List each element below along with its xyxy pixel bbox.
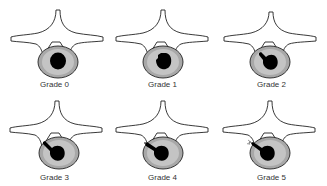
grade-label: Grade 4 — [108, 173, 217, 182]
grade-label: Grade 0 — [0, 80, 109, 89]
grade-label: Grade 2 — [217, 80, 326, 89]
panel-grade-1: Grade 1 — [108, 0, 217, 93]
panel-grade-0: Grade 0 — [0, 0, 109, 93]
panel-grade-2: Grade 2 — [217, 0, 326, 93]
panel-grade-4: Grade 4 — [108, 93, 217, 186]
grade-label: Grade 1 — [108, 80, 217, 89]
grade-label: Grade 3 — [0, 173, 109, 182]
grade-label: Grade 5 — [217, 173, 326, 182]
panel-grade-5: Grade 5 — [217, 93, 326, 186]
grading-diagram: Grade 0 Grade 1 Grade 2 Grade 3 — [0, 0, 327, 186]
panel-grade-3: Grade 3 — [0, 93, 109, 186]
